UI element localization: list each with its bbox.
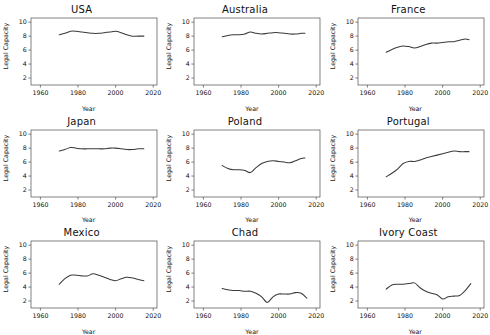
plot-frame — [358, 241, 484, 308]
x-axis-tick-label: 2000 — [434, 312, 450, 319]
y-axis-tick-label: 2 — [23, 74, 27, 81]
y-axis-tick-label: 2 — [349, 186, 353, 193]
y-axis-tick-label: 8 — [349, 32, 353, 39]
y-axis-tick-label: 4 — [349, 284, 353, 291]
y-axis-tick-label: 6 — [23, 270, 27, 277]
y-axis-tick-label: 8 — [23, 256, 27, 263]
y-axis-tick-label: 4 — [349, 60, 353, 67]
x-axis-tick-label: 2000 — [108, 312, 124, 319]
x-axis-tick-label: 1960 — [32, 89, 48, 96]
data-series-line — [386, 151, 469, 177]
x-axis-tick-label: 2020 — [472, 89, 488, 96]
panel-title: Ivory Coast — [327, 227, 490, 238]
data-series-line — [386, 39, 469, 52]
y-axis-tick-label: 10 — [182, 130, 190, 137]
panel-title: Poland — [163, 116, 326, 127]
x-axis-tick-label: 1980 — [70, 200, 86, 207]
x-axis-tick-label: 2000 — [271, 200, 287, 207]
plot-frame — [358, 18, 484, 85]
panel-title: Chad — [163, 227, 326, 238]
x-axis-tick-label: 2020 — [309, 312, 325, 319]
x-axis-label: Year — [18, 216, 159, 223]
data-series-line — [59, 147, 144, 151]
y-axis-tick-label: 2 — [186, 74, 190, 81]
chart-panel: Mexico2468101960198020002020Legal Capaci… — [0, 223, 163, 335]
x-axis-tick-label: 1980 — [70, 312, 86, 319]
y-axis-tick-label: 2 — [349, 298, 353, 305]
x-axis-tick-label: 2000 — [108, 200, 124, 207]
plot-area: 2468101960198020002020 — [0, 112, 163, 224]
x-axis-label: Year — [345, 328, 486, 335]
plot-frame — [31, 241, 157, 308]
y-axis-label: Legal Capacity — [165, 130, 175, 186]
data-series-line — [223, 158, 306, 173]
x-axis-label: Year — [345, 216, 486, 223]
x-axis-tick-label: 1960 — [359, 89, 375, 96]
x-axis-tick-label: 1980 — [233, 89, 249, 96]
plot-area: 2468101960198020002020 — [163, 0, 326, 112]
x-axis-tick-label: 2000 — [108, 89, 124, 96]
x-axis-tick-label: 2020 — [472, 312, 488, 319]
x-axis-tick-label: 2020 — [145, 312, 161, 319]
y-axis-label: Legal Capacity — [165, 18, 175, 74]
y-axis-tick-label: 2 — [23, 298, 27, 305]
x-axis-label: Year — [345, 105, 486, 112]
y-axis-tick-label: 6 — [186, 158, 190, 165]
plot-frame — [194, 18, 320, 85]
plot-area: 2468101960198020002020 — [327, 223, 490, 335]
panel-title: Mexico — [0, 227, 163, 238]
chart-panel: Chad2468101960198020002020Legal Capacity… — [163, 223, 326, 335]
chart-panel: USA2468101960198020002020Legal CapacityY… — [0, 0, 163, 112]
chart-panel: France2468101960198020002020Legal Capaci… — [327, 0, 490, 112]
x-axis-label: Year — [181, 105, 322, 112]
y-axis-label: Legal Capacity — [329, 241, 339, 297]
y-axis-tick-label: 2 — [186, 298, 190, 305]
data-series-line — [223, 32, 306, 37]
y-axis-tick-label: 10 — [345, 242, 353, 249]
chart-panel: Ivory Coast2468101960198020002020Legal C… — [327, 223, 490, 335]
x-axis-tick-label: 1960 — [196, 312, 212, 319]
y-axis-tick-label: 10 — [19, 242, 27, 249]
y-axis-tick-label: 6 — [349, 270, 353, 277]
x-axis-tick-label: 1960 — [359, 312, 375, 319]
y-axis-tick-label: 10 — [345, 130, 353, 137]
y-axis-tick-label: 4 — [186, 60, 190, 67]
y-axis-tick-label: 4 — [23, 284, 27, 291]
plot-area: 2468101960198020002020 — [327, 0, 490, 112]
plot-frame — [194, 130, 320, 197]
y-axis-label: Legal Capacity — [2, 18, 12, 74]
chart-panel: Portugal2468101960198020002020Legal Capa… — [327, 112, 490, 224]
plot-area: 2468101960198020002020 — [163, 223, 326, 335]
y-axis-tick-label: 10 — [182, 242, 190, 249]
x-axis-tick-label: 1980 — [233, 312, 249, 319]
y-axis-tick-label: 8 — [186, 256, 190, 263]
plot-area: 2468101960198020002020 — [327, 112, 490, 224]
y-axis-tick-label: 10 — [345, 18, 353, 25]
y-axis-tick-label: 4 — [186, 284, 190, 291]
y-axis-tick-label: 8 — [23, 32, 27, 39]
x-axis-tick-label: 1960 — [359, 200, 375, 207]
plot-area: 2468101960198020002020 — [163, 112, 326, 224]
x-axis-label: Year — [181, 216, 322, 223]
x-axis-label: Year — [18, 105, 159, 112]
x-axis-tick-label: 1960 — [196, 200, 212, 207]
plot-frame — [358, 130, 484, 197]
x-axis-tick-label: 2020 — [145, 200, 161, 207]
y-axis-tick-label: 6 — [23, 46, 27, 53]
y-axis-tick-label: 10 — [19, 130, 27, 137]
y-axis-label: Legal Capacity — [329, 18, 339, 74]
panel-title: France — [327, 4, 490, 15]
y-axis-tick-label: 6 — [186, 270, 190, 277]
panel-title: Australia — [163, 4, 326, 15]
x-axis-label: Year — [18, 328, 159, 335]
x-axis-tick-label: 2020 — [309, 89, 325, 96]
x-axis-tick-label: 2020 — [145, 89, 161, 96]
y-axis-tick-label: 6 — [349, 46, 353, 53]
y-axis-label: Legal Capacity — [329, 130, 339, 186]
y-axis-tick-label: 8 — [186, 144, 190, 151]
y-axis-tick-label: 6 — [186, 46, 190, 53]
y-axis-tick-label: 8 — [23, 144, 27, 151]
y-axis-tick-label: 4 — [23, 172, 27, 179]
y-axis-tick-label: 10 — [19, 18, 27, 25]
plot-area: 2468101960198020002020 — [0, 0, 163, 112]
